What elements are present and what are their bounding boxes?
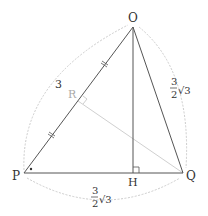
angle-mark-p <box>30 168 32 170</box>
svg-text:√3: √3 <box>178 85 191 96</box>
label-length-op: 3 <box>55 78 62 91</box>
segment-oq <box>133 27 183 173</box>
label-length-oq: 3 2 √3 <box>170 76 191 100</box>
label-q: Q <box>186 169 196 183</box>
svg-text:3: 3 <box>92 185 98 196</box>
arc-oq <box>139 27 187 168</box>
svg-text:3: 3 <box>171 76 177 87</box>
right-angle-mark-r <box>83 96 87 104</box>
svg-text:2: 2 <box>92 198 98 209</box>
label-length-pq: 3 2 √3 <box>91 185 112 209</box>
label-p: P <box>12 169 20 183</box>
segment-qr <box>78 101 183 173</box>
geometry-diagram: O P Q H R 3 3 2 √3 3 2 √3 <box>0 0 208 216</box>
label-r: R <box>68 88 77 101</box>
right-angle-mark-h <box>133 167 139 173</box>
svg-text:√3: √3 <box>99 194 112 205</box>
svg-text:2: 2 <box>171 89 177 100</box>
segment-op <box>24 27 133 173</box>
label-o: O <box>128 11 138 25</box>
label-h: H <box>128 176 138 189</box>
